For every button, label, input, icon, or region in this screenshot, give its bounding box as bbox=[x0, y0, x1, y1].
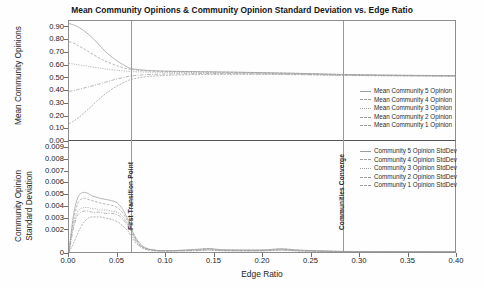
y-tick-mark bbox=[64, 194, 68, 195]
y-tick-label: 0.10 bbox=[20, 124, 64, 132]
legend-line-swatch bbox=[360, 151, 371, 152]
x-tick-mark bbox=[68, 253, 69, 257]
legend-item[interactable]: Mean Community 5 Opinion bbox=[360, 87, 452, 96]
y-tick-label: 0.009 bbox=[18, 143, 64, 151]
page-title: Mean Community Opinions & Community Opin… bbox=[0, 5, 484, 15]
y-tick-label: 0.60 bbox=[20, 61, 64, 69]
x-tick-mark bbox=[311, 253, 312, 257]
legend-item[interactable]: Community 1 Opinion StdDev bbox=[360, 181, 457, 190]
legend-line-swatch bbox=[360, 99, 371, 100]
legend-item[interactable]: Community 5 Opinion StdDev bbox=[360, 147, 457, 156]
x-tick-mark bbox=[359, 253, 360, 257]
x-tick-label: 0.00 bbox=[48, 257, 88, 265]
y-tick-label: 0.005 bbox=[18, 190, 64, 198]
legend-item[interactable]: Community 2 Opinion StdDev bbox=[360, 173, 457, 182]
legend-label: Community 5 Opinion StdDev bbox=[374, 147, 457, 156]
y-tick-mark bbox=[64, 52, 68, 53]
legend-item[interactable]: Community 4 Opinion StdDev bbox=[360, 156, 457, 165]
y-tick-label: 0.007 bbox=[18, 167, 64, 175]
y-tick-mark bbox=[64, 116, 68, 117]
x-tick-label: 0.25 bbox=[291, 257, 331, 265]
y-tick-mark bbox=[64, 90, 68, 91]
legend-label: Community 2 Opinion StdDev bbox=[374, 173, 457, 182]
legend-label: Mean Community 3 Opinion bbox=[374, 104, 452, 113]
legend-line-swatch bbox=[360, 185, 371, 186]
x-tick-mark bbox=[165, 253, 166, 257]
legend-label: Community 4 Opinion StdDev bbox=[374, 156, 457, 165]
y-tick-label: 0.30 bbox=[20, 99, 64, 107]
x-tick-label: 0.15 bbox=[194, 257, 234, 265]
legend-line-swatch bbox=[360, 117, 371, 118]
y-tick-mark bbox=[64, 128, 68, 129]
x-tick-label: 0.30 bbox=[339, 257, 379, 265]
y-tick-label: 0.90 bbox=[20, 23, 64, 31]
annotation-label-first-transition-point: First Transition Point bbox=[127, 162, 134, 230]
legend-item[interactable]: Mean Community 4 Opinion bbox=[360, 96, 452, 105]
y-tick-label: 0.008 bbox=[18, 155, 64, 163]
legend-stddev: Community 5 Opinion StdDevCommunity 4 Op… bbox=[360, 147, 457, 190]
y-tick-mark bbox=[64, 182, 68, 183]
legend-label: Mean Community 5 Opinion bbox=[374, 87, 452, 96]
legend-line-swatch bbox=[360, 177, 371, 178]
y-tick-label: 0.70 bbox=[20, 48, 64, 56]
legend-line-swatch bbox=[360, 159, 371, 160]
x-tick-mark bbox=[408, 253, 409, 257]
y-tick-label: 0.004 bbox=[18, 202, 64, 210]
legend-line-swatch bbox=[360, 108, 371, 109]
y-tick-label: 0.50 bbox=[20, 74, 64, 82]
y-tick-mark bbox=[64, 77, 68, 78]
y-tick-mark bbox=[64, 171, 68, 172]
x-tick-mark bbox=[214, 253, 215, 257]
legend-item[interactable]: Community 3 Opinion StdDev bbox=[360, 164, 457, 173]
y-tick-mark bbox=[64, 229, 68, 230]
legend-label: Mean Community 4 Opinion bbox=[374, 96, 452, 105]
y-tick-label: 0.80 bbox=[20, 35, 64, 43]
y-tick-mark bbox=[64, 26, 68, 27]
x-tick-mark bbox=[262, 253, 263, 257]
legend-line-swatch bbox=[360, 168, 371, 169]
legend-label: Mean Community 2 Opinion bbox=[374, 113, 452, 122]
y-tick-mark bbox=[64, 218, 68, 219]
y-tick-mark bbox=[64, 103, 68, 104]
legend-line-swatch bbox=[360, 125, 371, 126]
y-tick-mark bbox=[64, 39, 68, 40]
y-tick-mark bbox=[64, 206, 68, 207]
x-tick-label: 0.35 bbox=[388, 257, 428, 265]
y-tick-label: 0.006 bbox=[18, 178, 64, 186]
y-tick-label: 0.003 bbox=[18, 214, 64, 222]
x-tick-mark bbox=[117, 253, 118, 257]
legend-line-swatch bbox=[360, 91, 371, 92]
series-line bbox=[69, 42, 455, 76]
legend-item[interactable]: Mean Community 1 Opinion bbox=[360, 121, 452, 130]
series-line bbox=[69, 24, 455, 76]
chart-figure: Mean Community Opinions & Community Opin… bbox=[0, 0, 484, 288]
x-axis-label: Edge Ratio bbox=[68, 269, 456, 279]
y-tick-label: 0 bbox=[18, 249, 64, 257]
legend-item[interactable]: Mean Community 3 Opinion bbox=[360, 104, 452, 113]
x-tick-mark bbox=[456, 253, 457, 257]
legend-label: Community 1 Opinion StdDev bbox=[374, 181, 457, 190]
y-tick-mark bbox=[64, 159, 68, 160]
legend-label: Community 3 Opinion StdDev bbox=[374, 164, 457, 173]
y-tick-mark bbox=[64, 65, 68, 66]
x-tick-label: 0.05 bbox=[97, 257, 137, 265]
legend-item[interactable]: Mean Community 2 Opinion bbox=[360, 113, 452, 122]
annotation-label-communities-converge: Communities Converge bbox=[338, 154, 345, 230]
y-tick-label: 0.20 bbox=[20, 112, 64, 120]
y-tick-label: 0.002 bbox=[18, 226, 64, 234]
x-tick-label: 0.40 bbox=[436, 257, 476, 265]
y-tick-mark bbox=[64, 147, 68, 148]
x-tick-label: 0.10 bbox=[145, 257, 185, 265]
legend-label: Mean Community 1 Opinion bbox=[374, 121, 452, 130]
x-tick-label: 0.20 bbox=[242, 257, 282, 265]
y-tick-label: 0.40 bbox=[20, 86, 64, 94]
legend-mean-opinions: Mean Community 5 OpinionMean Community 4… bbox=[360, 87, 452, 130]
